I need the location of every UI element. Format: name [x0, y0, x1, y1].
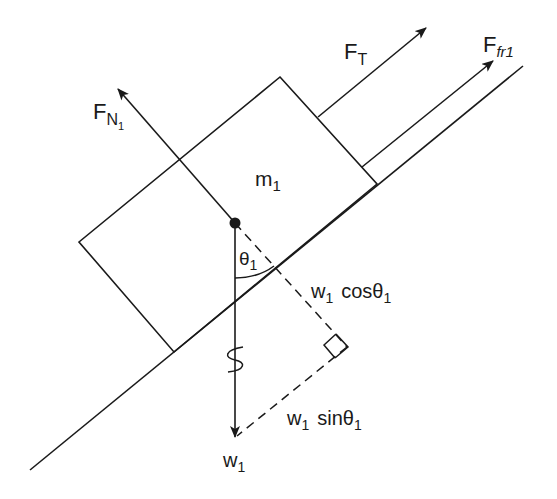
diagram-canvas: m1 FN1 FT Ffr1 θ1 w1cosθ1 w1sinθ1 w1	[0, 0, 557, 499]
label-friction-force: Ffr1	[483, 32, 514, 60]
label-angle-theta: θ1	[239, 248, 258, 273]
label-weight-sin: w1sinθ1	[286, 407, 362, 433]
free-body-diagram: m1 FN1 FT Ffr1 θ1 w1cosθ1 w1sinθ1 w1	[0, 0, 557, 499]
label-tension-force: FT	[344, 39, 367, 68]
center-of-mass-dot	[230, 218, 241, 229]
friction-arrow	[362, 61, 493, 167]
weight-cos-component	[235, 223, 347, 347]
label-weight: w1	[222, 449, 245, 475]
tension-arrow	[318, 28, 426, 117]
label-weight-cos: w1cosθ1	[310, 280, 392, 306]
right-angle-marker-inner	[324, 334, 336, 358]
label-mass: m1	[255, 167, 281, 194]
normal-force-arrow	[118, 89, 235, 223]
label-normal-force: FN1	[93, 99, 124, 132]
